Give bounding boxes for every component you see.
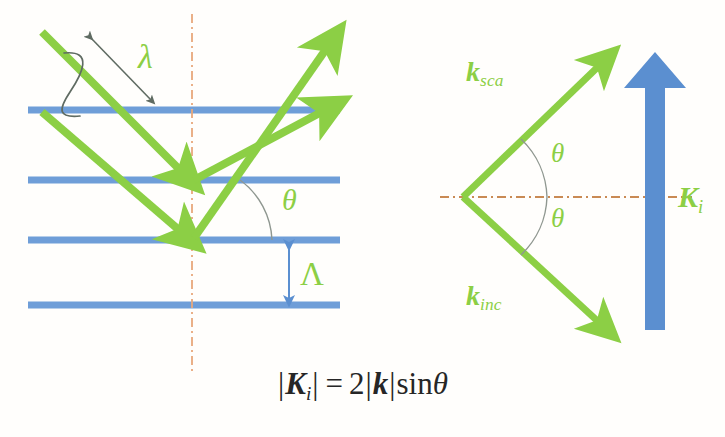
- k-inc-subscript: inc: [480, 295, 502, 314]
- k-inc-label: kinc: [466, 282, 502, 310]
- wavelength-label: λ: [138, 40, 153, 74]
- K-i-subscript: i: [698, 196, 703, 217]
- k-sca-symbol: k: [466, 56, 480, 87]
- equation-K-symbol: K: [285, 366, 306, 401]
- angle-arc-top: [521, 139, 547, 197]
- equation-equals: =: [320, 366, 349, 401]
- equation-sin-function: sin: [396, 366, 432, 401]
- equation-k-symbol: k: [373, 366, 389, 401]
- K-i-label: Ki: [678, 182, 703, 212]
- angle-label-left: θ: [282, 185, 297, 215]
- equation-theta: θ: [433, 366, 448, 401]
- k-sca-label: ksca: [466, 58, 504, 86]
- bragg-diffraction-figure: λ θ Λ ksca kinc θ θ Ki |Ki|=2|k|sinθ: [0, 0, 725, 437]
- angle-arc-bottom: [521, 197, 547, 255]
- grating-period-label: Λ: [300, 258, 324, 291]
- angle-arc-left: [240, 180, 272, 240]
- scattered-ray-upper: [194, 108, 329, 180]
- angle-label-bottom: θ: [551, 205, 564, 232]
- incident-ray-lower: [42, 112, 186, 236]
- equation-coefficient: 2: [349, 366, 365, 401]
- equation-bar-close: |: [311, 366, 319, 401]
- K-i-arrow: [624, 52, 686, 330]
- K-i-symbol: K: [678, 180, 698, 213]
- scattered-rays-group: [194, 42, 331, 238]
- angle-label-top: θ: [551, 140, 564, 167]
- k-inc-symbol: k: [466, 280, 480, 311]
- equation-bar-open-2: |: [365, 366, 373, 401]
- k-sca-subscript: sca: [480, 71, 504, 90]
- equation-K-subscript: i: [306, 383, 311, 404]
- bragg-equation: |Ki|=2|k|sinθ: [0, 368, 725, 399]
